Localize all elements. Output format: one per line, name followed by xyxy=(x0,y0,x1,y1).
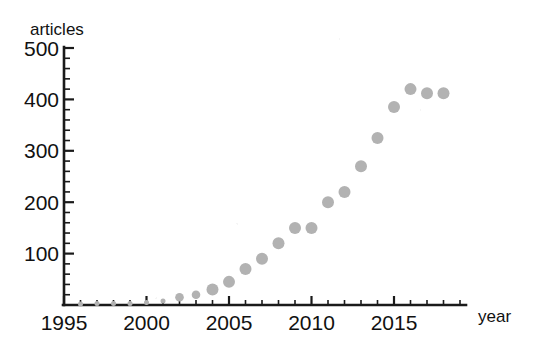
articles-per-year-scatter-chart: articles year 100200300400500 1995200020… xyxy=(0,0,539,355)
data-point xyxy=(111,301,116,306)
y-tick-label: 100 xyxy=(24,242,59,265)
y-tick-label: 400 xyxy=(24,88,59,111)
x-tick-label: 2010 xyxy=(288,311,335,334)
x-axis-title: year xyxy=(478,307,511,326)
data-point xyxy=(78,301,83,306)
y-axis-tick-labels: 100200300400500 xyxy=(24,37,59,266)
chart-container: articles year 100200300400500 1995200020… xyxy=(0,0,539,355)
data-point xyxy=(161,298,166,303)
data-point xyxy=(207,284,219,296)
data-point xyxy=(388,101,400,113)
data-point xyxy=(421,87,433,99)
data-point xyxy=(144,300,149,305)
data-point xyxy=(192,290,201,299)
y-tick-label: 300 xyxy=(24,139,59,162)
data-point xyxy=(405,83,417,95)
data-point xyxy=(322,196,334,208)
data-point xyxy=(95,301,100,306)
data-point xyxy=(306,222,318,234)
data-point xyxy=(355,160,367,172)
x-tick-label: 2005 xyxy=(206,311,253,334)
y-tick-label: 500 xyxy=(24,37,59,60)
data-point xyxy=(339,186,351,198)
data-point xyxy=(438,87,450,99)
data-point xyxy=(175,293,184,302)
x-axis-tick-labels: 19952000200520102015 xyxy=(41,311,418,334)
data-point xyxy=(273,237,285,249)
data-point-group xyxy=(78,83,450,306)
data-point xyxy=(240,263,252,275)
data-point xyxy=(128,301,133,306)
x-tick-label: 2000 xyxy=(123,311,170,334)
x-tick-label: 1995 xyxy=(41,311,88,334)
y-tick-label: 200 xyxy=(24,191,59,214)
data-point xyxy=(289,222,301,234)
data-point xyxy=(372,132,384,144)
data-point xyxy=(223,276,235,288)
x-tick-label: 2015 xyxy=(371,311,418,334)
data-point xyxy=(256,253,268,265)
